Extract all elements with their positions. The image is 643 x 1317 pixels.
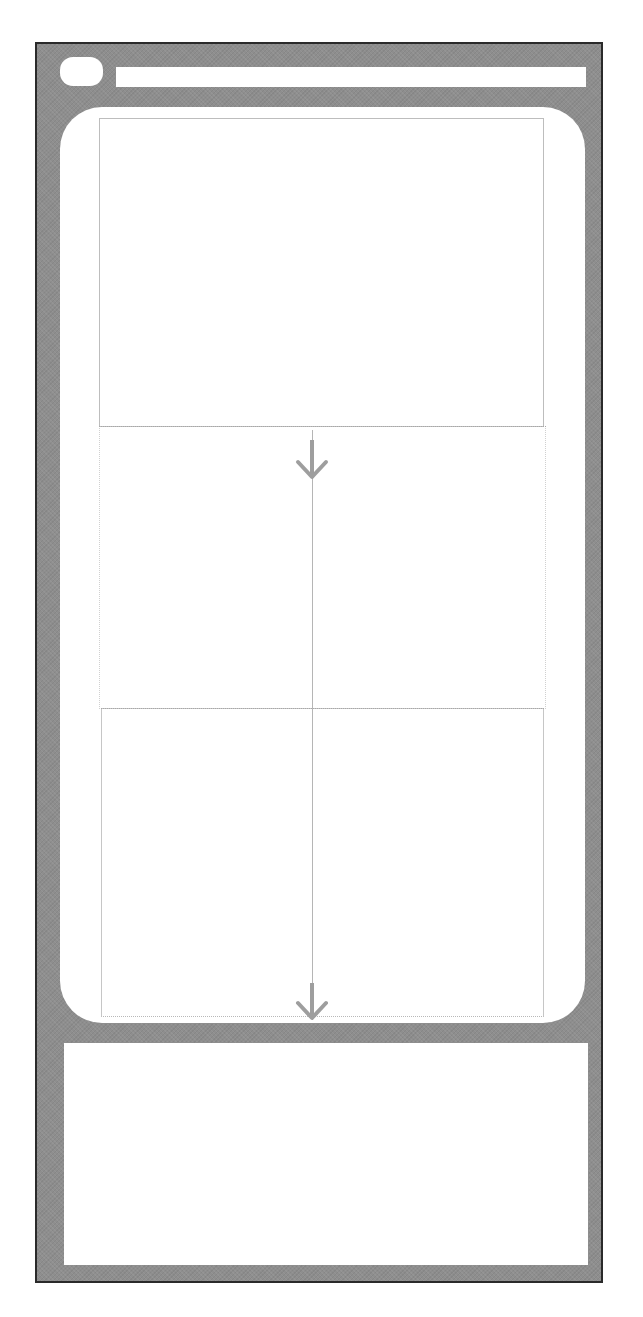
screen-top (99, 118, 544, 427)
screen-divider-lower (101, 708, 544, 709)
arrow-down-icon (293, 440, 333, 480)
top-bar (116, 67, 586, 87)
home-pill (60, 57, 103, 86)
screen-divider-upper (99, 426, 546, 427)
screen-bottom (101, 708, 544, 1017)
diagram-canvas (0, 0, 643, 1317)
bottom-panel (64, 1043, 588, 1265)
scroll-flow-line (312, 430, 313, 1015)
arrow-down-icon (293, 983, 333, 1023)
